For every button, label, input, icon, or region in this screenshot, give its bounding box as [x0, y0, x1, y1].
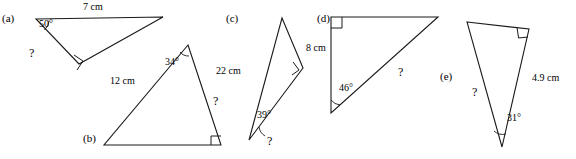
triangle-b-shape — [104, 45, 221, 145]
triangle-c-shape — [249, 18, 303, 140]
triangle-a-top-side-label: 7 cm — [83, 2, 103, 12]
triangle-e-side-label: 4.9 cm — [532, 73, 559, 83]
triangle-e-tag: (e) — [440, 71, 452, 82]
triangle-d-tag: (d) — [317, 13, 330, 24]
triangle-c-side-label: 22 cm — [216, 66, 241, 76]
triangle-c-unknown-label: ? — [267, 135, 272, 147]
triangle-b-side-label: 12 cm — [110, 76, 135, 86]
triangle-c-angle-label: 39° — [257, 110, 271, 120]
triangle-a-tag: (a) — [2, 13, 14, 24]
triangle-e-unknown-label: ? — [472, 86, 477, 98]
triangle-d-unknown-label: ? — [398, 66, 403, 78]
triangle-d-angle-label: 46° — [339, 83, 353, 93]
triangle-b-tag: (b) — [83, 133, 96, 144]
triangle-e-angle-label: 31° — [507, 113, 521, 123]
triangle-a-angle-label: 50° — [39, 19, 53, 29]
diagram-canvas: (a) 50° 7 cm ? (b) 34° 12 cm ? (c) 22 cm… — [0, 0, 576, 159]
triangle-b-angle-label: 34° — [165, 57, 179, 67]
triangle-b-unknown-label: ? — [213, 95, 218, 107]
triangle-c-tag: (c) — [226, 13, 238, 24]
triangle-d-shape — [331, 17, 438, 113]
triangle-a-unknown-label: ? — [29, 47, 34, 59]
triangle-d-side-label: 8 cm — [306, 43, 326, 53]
triangle-a-shape — [36, 17, 163, 70]
